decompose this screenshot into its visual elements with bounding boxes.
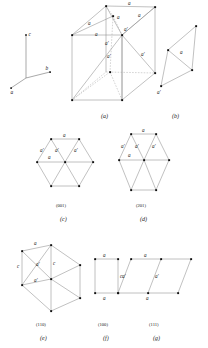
panel-f-label-0: a xyxy=(103,252,106,258)
panel-c-caption: (c) xyxy=(60,216,67,223)
panel-d-miller: (201) xyxy=(136,203,146,208)
panel-a-label-2: a xyxy=(88,20,91,26)
panel-b: a a' (b) xyxy=(157,25,197,120)
axis-label-c: c xyxy=(29,31,32,37)
panel-g-caption: (g) xyxy=(153,335,160,342)
panel-c-label-2: a' xyxy=(40,147,45,153)
panel-a-label-6: a' xyxy=(105,40,110,46)
panel-e-label-1: c xyxy=(17,263,20,269)
panel-f-caption: (f) xyxy=(103,335,109,342)
panel-g: a a a' a' (111) (g) xyxy=(117,252,192,342)
axis-label-b: b xyxy=(46,65,49,71)
panel-g-label-3: a' xyxy=(155,273,160,279)
panel-e-label-2: c xyxy=(53,260,56,266)
panel-g-miller: (111) xyxy=(149,322,159,327)
panel-a-caption: (a) xyxy=(101,113,108,120)
panel-c-miller: (001) xyxy=(56,203,66,208)
panel-d-label-2: a' xyxy=(121,143,126,149)
panel-a-label-5: a' xyxy=(124,26,129,32)
panel-f: a a c (100) (f) xyxy=(94,252,123,342)
panel-e-label-3: a' xyxy=(36,261,41,267)
panel-d-caption: (d) xyxy=(140,216,147,223)
figure-plate: c b a xyxy=(0,0,208,348)
axis-triad: c b a xyxy=(10,31,51,95)
panel-g-label-2: a' xyxy=(122,273,127,279)
panel-g-label-1: a xyxy=(146,295,149,301)
panel-e: a c c a' a' (110) (e) xyxy=(17,240,81,342)
panel-d: a a a' a' a' (201) (d) xyxy=(118,127,170,223)
panel-f-label-1: a xyxy=(103,295,106,301)
panel-a-label-8: a' xyxy=(141,51,146,57)
panel-a-label-0: a xyxy=(128,0,131,6)
panel-d-label-1: a xyxy=(128,152,131,158)
panel-c: a a a' a' a' (001) (c) xyxy=(36,132,94,223)
panel-c-label-0: a xyxy=(63,132,66,138)
panel-b-label-1: a' xyxy=(157,89,162,95)
panel-c-label-1: a xyxy=(48,154,51,160)
panel-f-miller: (100) xyxy=(98,322,108,327)
panel-a-label-4: a xyxy=(117,14,120,20)
panel-a: a a a a a a' a' a' a' (a) xyxy=(71,0,156,120)
panel-a-label-1: a xyxy=(138,12,141,18)
panel-e-label-0: a xyxy=(34,240,37,246)
panel-g-label-0: a xyxy=(144,252,147,258)
panel-e-label-4: a' xyxy=(34,277,39,283)
panel-e-caption: (e) xyxy=(40,335,47,342)
panel-d-label-4: a' xyxy=(152,143,157,149)
panel-d-label-0: a xyxy=(142,127,145,133)
panel-e-miller: (110) xyxy=(36,322,46,327)
panel-d-label-3: a' xyxy=(135,143,140,149)
panel-a-label-3: a xyxy=(95,31,98,37)
panel-b-label-0: a xyxy=(180,49,183,55)
panel-b-caption: (b) xyxy=(172,113,179,120)
lattice-figure-svg: c b a xyxy=(0,0,208,348)
panel-c-label-4: a' xyxy=(74,147,79,153)
axis-label-a: a xyxy=(11,89,14,95)
